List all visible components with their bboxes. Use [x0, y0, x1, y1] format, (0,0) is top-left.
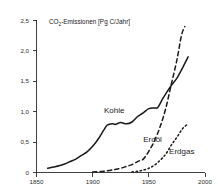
- y-tick-label: 0,5: [20, 138, 29, 145]
- x-tick-label: 1950: [142, 178, 156, 185]
- series-label-kohle: Kohle: [104, 106, 125, 115]
- chart-title-prefix: CO: [49, 18, 59, 25]
- chart-canvas: CO2-Emissionen [Pg C/Jahr] 0 0,5 1,0 1,5…: [0, 0, 218, 192]
- y-axis-ticks: 0 0,5 1,0 1,5 2,0 2,5: [20, 17, 36, 176]
- x-tick-label: 2000: [198, 178, 212, 185]
- y-tick-label: 1,0: [20, 108, 29, 115]
- y-tick-label: 1,5: [20, 77, 29, 84]
- y-tick-label: 2,5: [20, 17, 29, 24]
- co2-emissions-chart: CO2-Emissionen [Pg C/Jahr] 0 0,5 1,0 1,5…: [0, 0, 218, 192]
- x-axis-ticks: 1850 1900 1950 2000: [30, 173, 213, 186]
- series-label-erdgas: Erdgas: [169, 147, 194, 156]
- x-tick-label: 1850: [30, 178, 44, 185]
- y-tick-label: 2,0: [20, 47, 29, 54]
- x-tick-label: 1900: [86, 178, 100, 185]
- chart-title-suffix: -Emissionen [Pg C/Jahr]: [61, 18, 130, 26]
- chart-title: CO2-Emissionen [Pg C/Jahr]: [49, 18, 130, 27]
- y-tick-label: 0: [26, 169, 30, 176]
- series-label-erdoel: Erdöl: [143, 135, 162, 144]
